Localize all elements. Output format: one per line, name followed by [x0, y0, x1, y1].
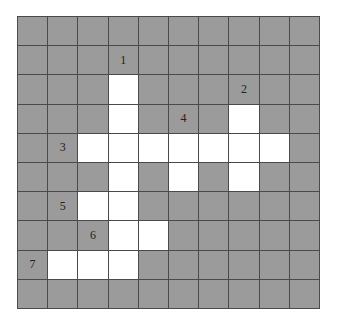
answer-cell[interactable] [229, 134, 258, 162]
block-cell [199, 105, 228, 133]
block-cell [169, 46, 198, 74]
block-cell [78, 75, 107, 103]
answer-cell[interactable] [169, 163, 198, 191]
block-cell [48, 280, 77, 308]
answer-cell[interactable] [78, 134, 107, 162]
crossword-grid: 1243567 [17, 16, 320, 309]
block-cell [48, 163, 77, 191]
answer-cell[interactable] [109, 75, 138, 103]
block-cell [18, 46, 47, 74]
block-cell [18, 17, 47, 45]
answer-cell[interactable] [78, 251, 107, 279]
block-cell [78, 280, 107, 308]
block-cell [109, 280, 138, 308]
block-cell [260, 105, 289, 133]
block-cell [18, 221, 47, 249]
block-cell [48, 221, 77, 249]
answer-cell[interactable] [229, 105, 258, 133]
block-cell [199, 280, 228, 308]
answer-cell[interactable] [109, 163, 138, 191]
answer-cell[interactable] [109, 251, 138, 279]
block-cell [290, 192, 319, 220]
clue-number: 4 [181, 111, 187, 126]
block-cell [169, 251, 198, 279]
block-cell [199, 163, 228, 191]
block-cell [48, 75, 77, 103]
answer-cell[interactable] [109, 105, 138, 133]
block-cell: 1 [109, 46, 138, 74]
block-cell [229, 280, 258, 308]
block-cell [290, 163, 319, 191]
answer-cell[interactable] [169, 134, 198, 162]
block-cell [48, 105, 77, 133]
block-cell [199, 46, 228, 74]
clue-number: 6 [90, 228, 96, 243]
block-cell [290, 134, 319, 162]
answer-cell[interactable] [78, 192, 107, 220]
block-cell [18, 75, 47, 103]
block-cell: 5 [48, 192, 77, 220]
block-cell [18, 134, 47, 162]
block-cell [18, 163, 47, 191]
block-cell [78, 163, 107, 191]
block-cell [78, 46, 107, 74]
block-cell [139, 192, 168, 220]
block-cell [199, 17, 228, 45]
block-cell [260, 192, 289, 220]
block-cell [290, 75, 319, 103]
block-cell [290, 251, 319, 279]
block-cell [48, 46, 77, 74]
block-cell [78, 17, 107, 45]
block-cell: 2 [229, 75, 258, 103]
block-cell [199, 251, 228, 279]
clue-number: 5 [60, 199, 66, 214]
clue-number: 1 [120, 53, 126, 68]
block-cell [199, 221, 228, 249]
answer-cell[interactable] [48, 251, 77, 279]
block-cell [260, 221, 289, 249]
clue-number: 3 [60, 140, 66, 155]
block-cell [139, 105, 168, 133]
answer-cell[interactable] [229, 163, 258, 191]
block-cell [169, 75, 198, 103]
answer-cell[interactable] [199, 134, 228, 162]
block-cell [290, 105, 319, 133]
block-cell [18, 280, 47, 308]
block-cell [48, 17, 77, 45]
block-cell [139, 46, 168, 74]
block-cell [18, 192, 47, 220]
clue-number: 2 [241, 82, 247, 97]
block-cell [229, 192, 258, 220]
block-cell [260, 280, 289, 308]
block-cell [260, 46, 289, 74]
block-cell [139, 251, 168, 279]
block-cell: 6 [78, 221, 107, 249]
block-cell [290, 221, 319, 249]
answer-cell[interactable] [139, 134, 168, 162]
block-cell [139, 17, 168, 45]
block-cell [169, 280, 198, 308]
block-cell [229, 17, 258, 45]
block-cell [260, 17, 289, 45]
answer-cell[interactable] [109, 192, 138, 220]
block-cell [78, 105, 107, 133]
block-cell [260, 163, 289, 191]
block-cell [139, 163, 168, 191]
block-cell [169, 192, 198, 220]
block-cell [229, 251, 258, 279]
block-cell [169, 221, 198, 249]
answer-cell[interactable] [260, 134, 289, 162]
block-cell [169, 17, 198, 45]
answer-cell[interactable] [109, 221, 138, 249]
block-cell [290, 46, 319, 74]
answer-cell[interactable] [109, 134, 138, 162]
block-cell [290, 280, 319, 308]
answer-cell[interactable] [139, 221, 168, 249]
block-cell [18, 105, 47, 133]
block-cell: 4 [169, 105, 198, 133]
block-cell [109, 17, 138, 45]
clue-number: 7 [30, 257, 36, 272]
block-cell: 7 [18, 251, 47, 279]
block-cell [139, 280, 168, 308]
block-cell [290, 17, 319, 45]
